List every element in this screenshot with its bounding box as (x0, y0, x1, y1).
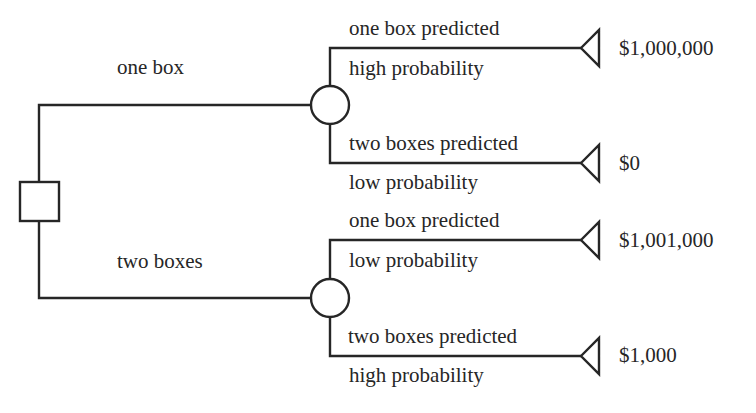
chance-node-two-boxes (311, 279, 349, 317)
terminal-node-triangle (581, 222, 599, 258)
payoff-value: $1,000 (619, 343, 677, 367)
outcome-event: one box predicted (349, 16, 500, 40)
outcome-probability: high probability (349, 56, 484, 80)
choice-label-one-box: one box (117, 55, 185, 79)
terminal-node-triangle (581, 145, 599, 181)
outcome-probability: low probability (349, 248, 478, 272)
terminal-node-triangle (581, 338, 599, 374)
payoff-value: $1,001,000 (619, 228, 714, 252)
payoff-value: $1,000,000 (619, 36, 714, 60)
decision-node-square (20, 182, 59, 221)
outcome-probability: high probability (349, 363, 484, 387)
terminal-node-triangle (581, 30, 599, 66)
decision-tree-diagram: one box two boxes one box predicted high… (0, 0, 756, 413)
outcome-event: two boxes predicted (348, 324, 518, 348)
edge-to-one-box (39, 105, 311, 182)
payoff-value: $0 (619, 151, 640, 175)
outcome-probability: low probability (349, 170, 478, 194)
choice-label-two-boxes: two boxes (117, 249, 203, 273)
outcome-event: one box predicted (349, 208, 500, 232)
chance-node-one-box (311, 86, 349, 124)
outcome-event: two boxes predicted (349, 131, 519, 155)
